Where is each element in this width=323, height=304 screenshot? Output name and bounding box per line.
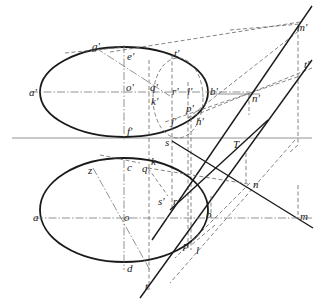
label-l: l [196, 244, 199, 256]
m-connector [230, 24, 300, 30]
label-a: a [33, 211, 39, 223]
j-t-dashed [165, 76, 300, 122]
label-e-prime: e' [127, 50, 135, 62]
line-t [140, 60, 312, 298]
label-n: n [253, 178, 259, 190]
label-p-prime: p' [185, 102, 195, 114]
label-r: r [173, 195, 178, 207]
label-j-prime: j' [169, 115, 177, 127]
label-o-prime: o' [126, 81, 135, 93]
label-q-prime: q' [150, 81, 159, 93]
label-s: s [165, 136, 169, 148]
label-b-prime: b' [210, 85, 219, 97]
label-r-prime: r' [172, 85, 179, 97]
label-o: o [124, 211, 130, 223]
label-t-prime: t' [304, 58, 310, 70]
long-diag-dashed [170, 140, 295, 283]
m-foot [290, 145, 298, 152]
label-a-prime: a' [29, 86, 38, 98]
label-k-prime: k' [151, 95, 159, 107]
label-n-prime: n' [252, 92, 261, 104]
line-s-m [172, 141, 313, 228]
z-t-line [93, 168, 150, 270]
label-p: p [182, 239, 189, 251]
h-t-dashed [188, 68, 312, 118]
label-f-prime: f' [127, 125, 133, 137]
label-l-prime: l' [187, 85, 193, 97]
label-q: q [142, 162, 148, 174]
label-g-prime: g' [92, 40, 101, 52]
label-s-prime: s' [158, 195, 165, 207]
geometry-diagram: g' e' a' o' q' k' t' r' l' p' j' h' b' f… [0, 0, 323, 304]
label-c: c [127, 161, 132, 173]
label-z: z [87, 164, 93, 176]
label-m: m [300, 210, 308, 222]
label-t-prime-top: t' [174, 47, 180, 59]
q-s-dashed [148, 168, 168, 196]
label-T: T [233, 138, 240, 150]
line-mid [170, 120, 268, 210]
label-h-prime: h' [196, 115, 205, 127]
label-m-prime: m' [297, 21, 308, 33]
label-b: b [206, 208, 212, 220]
label-d: d [127, 262, 133, 274]
